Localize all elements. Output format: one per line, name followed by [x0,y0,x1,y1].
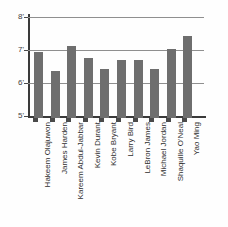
x-axis-label: Hakeem Olajuwon [43,122,52,189]
x-axis-label-text: Shaquille O'Neal [176,122,185,183]
x-axis-label-text: Kevin Durant [93,122,102,170]
bar[interactable] [67,46,76,118]
x-axis-label: LeBron James [143,122,152,176]
x-axis-label: James Harden [60,122,69,176]
bar[interactable] [51,71,60,118]
x-axis-label: Kareem Abdul-Jabbar [76,122,85,201]
x-axis-label-text: Kobe Bryant [109,122,118,168]
y-axis-label-6: 6' [0,79,24,87]
x-axis-labels: Hakeem OlajuwonJames HardenKareem Abdul-… [28,122,206,227]
x-axis-label-text: Kareem Abdul-Jabbar [76,122,85,201]
y-axis-label-8: 8' [0,13,24,21]
x-axis-label-text: Hakeem Olajuwon [43,122,52,189]
x-axis-label: Shaquille O'Neal [176,122,185,183]
y-axis-label-5: 5' [0,112,24,120]
x-axis-label: Yao Ming [192,122,201,157]
x-axis-label: Larry Bird [126,122,135,159]
bar[interactable] [183,36,192,119]
bar[interactable] [167,49,176,118]
bar[interactable] [150,69,159,119]
bar-chart: 8' 7' 6' 5' Hakeem OlajuwonJames HardenK… [0,0,228,227]
bar[interactable] [134,60,143,118]
x-axis-label-text: Yao Ming [192,122,201,157]
y-axis-label-7: 7' [0,46,24,54]
x-axis-label-text: James Harden [60,122,69,176]
bar[interactable] [117,60,126,118]
bar[interactable] [34,52,43,118]
x-axis-label-text: Michael Jordan [159,122,168,178]
x-axis-label: Michael Jordan [159,122,168,178]
x-axis-label: Kevin Durant [93,122,102,170]
x-axis-label-text: Larry Bird [126,122,135,159]
bar-series [28,14,206,118]
x-axis-label-text: LeBron James [143,122,152,176]
bar[interactable] [84,58,93,118]
y-axis-labels: 8' 7' 6' 5' [0,0,24,227]
x-axis-label: Kobe Bryant [109,122,118,168]
bar[interactable] [100,69,109,119]
